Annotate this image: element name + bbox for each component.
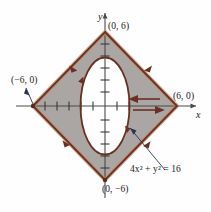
point-label-bottom: (0, −6) xyxy=(102,185,129,195)
figure-container: y x (0, 6) (−6, 0) (6, 0) (0, −6) 4x² + … xyxy=(0,0,211,212)
equation-label: 4x² + y² = 16 xyxy=(130,165,181,175)
point-label-right: (6, 0) xyxy=(173,92,194,102)
point-label-left: (−6, 0) xyxy=(11,76,38,86)
point-label-top: (0, 6) xyxy=(108,22,129,32)
x-axis-label: x xyxy=(196,110,201,120)
graph-canvas xyxy=(0,0,211,212)
vertex-dot-bottom xyxy=(103,178,107,182)
equation-text: 4x² + y² = 16 xyxy=(130,164,181,174)
y-axis-label: y xyxy=(98,12,103,22)
vertex-dot-left xyxy=(31,104,35,108)
